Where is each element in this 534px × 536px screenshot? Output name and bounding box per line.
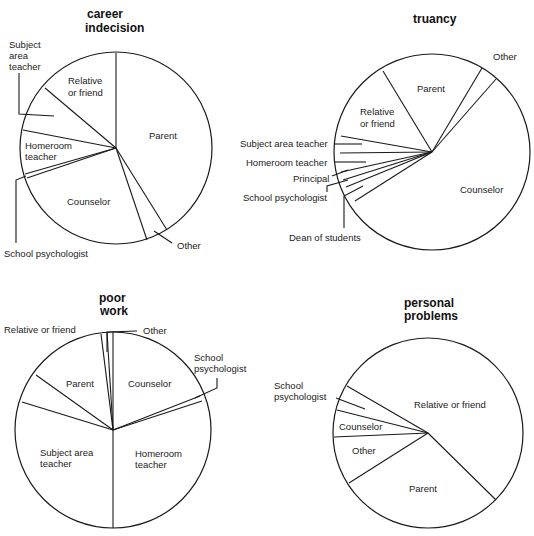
label-subject-area-teacher-1: Subject bbox=[9, 39, 41, 50]
label-counselor: Counselor bbox=[128, 378, 171, 389]
label-other: Other bbox=[493, 51, 517, 62]
label-school-psychologist-1: School bbox=[194, 352, 223, 363]
label-homeroom-teacher-1: Homeroom bbox=[25, 140, 72, 151]
label-other: Other bbox=[352, 445, 376, 456]
label-homeroom-teacher-2: teacher bbox=[135, 459, 167, 470]
label-parent: Parent bbox=[417, 83, 445, 94]
label-other: Other bbox=[143, 325, 167, 336]
pie-charts-figure: career indecision Subject area teacher R… bbox=[0, 0, 534, 536]
chart-title-line-2: work bbox=[99, 304, 128, 318]
leader-other bbox=[154, 231, 172, 243]
label-counselor: Counselor bbox=[339, 421, 382, 432]
label-subject-area-teacher-1: Subject area bbox=[40, 447, 94, 458]
chart-title: truancy bbox=[413, 12, 457, 26]
label-school-psychologist-2: psychologist bbox=[274, 391, 327, 402]
chart-title-line-1: career bbox=[87, 7, 123, 21]
chart-truancy: truancy Other Parent Relative or friend … bbox=[240, 12, 530, 250]
label-homeroom-teacher-1: Homeroom bbox=[135, 448, 182, 459]
leader-school-psychologist bbox=[16, 176, 26, 243]
label-school-psychologist: School psychologist bbox=[243, 192, 327, 203]
label-school-psychologist-2: psychologist bbox=[194, 363, 247, 374]
chart-personal-problems: personal problems School psychologist Re… bbox=[274, 296, 523, 528]
label-parent: Parent bbox=[409, 483, 437, 494]
label-relative-or-friend: Relative or friend bbox=[4, 324, 76, 335]
label-subject-area-teacher-3: teacher bbox=[9, 61, 41, 72]
label-parent: Parent bbox=[149, 130, 177, 141]
chart-career-indecision: career indecision Subject area teacher R… bbox=[4, 7, 212, 259]
chart-title-line-2: indecision bbox=[85, 21, 144, 35]
label-subject-area-teacher-2: teacher bbox=[40, 458, 72, 469]
label-principal: Principal bbox=[293, 173, 329, 184]
chart-title-line-1: personal bbox=[404, 296, 454, 310]
label-parent: Parent bbox=[66, 378, 94, 389]
chart-title-line-2: problems bbox=[404, 309, 458, 323]
label-counselor: Counselor bbox=[67, 196, 110, 207]
label-relative-or-friend-1: Relative bbox=[68, 75, 102, 86]
label-relative-or-friend-2: or friend bbox=[68, 87, 103, 98]
label-homeroom-teacher-2: teacher bbox=[25, 151, 57, 162]
label-school-psychologist: School psychologist bbox=[4, 248, 88, 259]
label-dean-of-students: Dean of students bbox=[289, 232, 361, 243]
label-homeroom-teacher: Homeroom teacher bbox=[246, 157, 327, 168]
label-relative-or-friend: Relative or friend bbox=[414, 399, 486, 410]
chart-poor-work: poor work Relative or friend Other Schoo… bbox=[4, 291, 247, 528]
label-school-psychologist-1: School bbox=[274, 380, 303, 391]
label-relative-or-friend-2: or friend bbox=[360, 118, 395, 129]
label-subject-area-teacher: Subject area teacher bbox=[240, 138, 328, 149]
label-other: Other bbox=[177, 240, 201, 251]
label-counselor: Counselor bbox=[460, 184, 503, 195]
chart-title-line-1: poor bbox=[99, 291, 126, 305]
label-relative-or-friend-1: Relative bbox=[360, 106, 394, 117]
label-subject-area-teacher-2: area bbox=[9, 50, 29, 61]
